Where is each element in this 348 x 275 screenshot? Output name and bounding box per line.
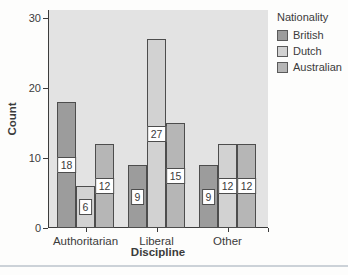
bar-value-label: 12: [95, 178, 115, 194]
page-divider-rule: [0, 265, 348, 267]
bar-value-label: 12: [218, 178, 238, 194]
legend-items: BritishDutchAustralian: [277, 27, 347, 75]
bar-value-label: 12: [237, 178, 257, 194]
bar-chart-figure: 010203018612Authoritarian92715Liberal912…: [0, 0, 348, 275]
bar-value-label: 15: [166, 168, 186, 184]
legend-item-label: British: [293, 28, 324, 42]
y-tick-mark: [43, 88, 48, 89]
bar-value-label: 9: [202, 189, 216, 205]
legend-item-british: British: [277, 27, 347, 43]
legend-item-label: Australian: [293, 60, 342, 74]
legend-swatch-british: [277, 30, 288, 41]
y-tick-label: 0: [15, 221, 41, 235]
y-tick-mark: [43, 228, 48, 229]
legend: Nationality BritishDutchAustralian: [277, 10, 347, 75]
x-tick-mark: [86, 228, 87, 232]
legend-swatch-dutch: [277, 46, 288, 57]
legend-item-dutch: Dutch: [277, 43, 347, 59]
legend-item-label: Dutch: [293, 44, 322, 58]
x-tick-mark: [157, 228, 158, 232]
y-tick-mark: [43, 18, 48, 19]
y-tick-mark: [43, 158, 48, 159]
x-tick-mark: [228, 228, 229, 232]
legend-item-australian: Australian: [277, 59, 347, 75]
y-axis-title: Count: [6, 88, 20, 150]
bar-value-label: 6: [79, 199, 93, 215]
legend-swatch-australian: [277, 62, 288, 73]
y-tick-label: 10: [15, 151, 41, 165]
legend-title: Nationality: [277, 10, 347, 24]
bar-value-label: 18: [57, 157, 77, 173]
bar-value-label: 9: [131, 189, 145, 205]
x-axis-end-tick: [268, 228, 269, 232]
y-tick-label: 30: [15, 11, 41, 25]
bar-value-label: 27: [147, 126, 167, 142]
x-axis-title: Discipline: [98, 246, 218, 258]
